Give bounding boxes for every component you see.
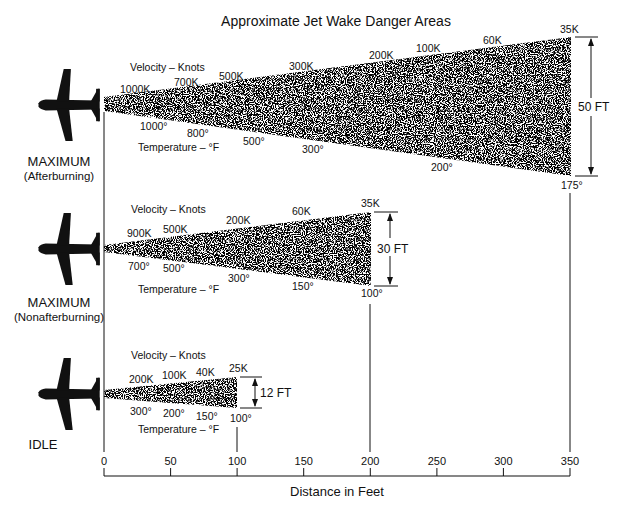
panel-idle: Velocity – Knots 200K 100K 40K 25K 300° …: [29, 349, 292, 452]
velocity-heading: Velocity – Knots: [130, 61, 205, 73]
velocity-label: 700K: [174, 76, 199, 88]
temperature-label: 1000°: [140, 120, 168, 132]
jet-wake-diagram: Approximate Jet Wake Danger Areas Veloci…: [0, 0, 617, 509]
temperature-label: 500°: [243, 135, 265, 147]
temperature-label: 800°: [187, 127, 209, 139]
temperature-label: 300°: [228, 272, 250, 284]
velocity-label: 35K: [361, 197, 380, 209]
temperature-label: 200°: [431, 161, 453, 173]
velocity-heading: Velocity – Knots: [131, 203, 206, 215]
velocity-label: 200K: [129, 373, 154, 385]
velocity-label: 200K: [226, 214, 251, 226]
axis-title: Distance in Feet: [290, 484, 384, 499]
plume-width-label: 50 FT: [578, 100, 610, 114]
axis-tick-label: 350: [561, 455, 579, 467]
temperature-label: 100°: [230, 412, 252, 424]
axis-tick-label: 0: [101, 455, 107, 467]
axis-tick-label: 250: [428, 455, 446, 467]
jet-aircraft-silhouette-icon: [39, 69, 100, 141]
axis-tick-label: 200: [361, 455, 379, 467]
diagram-title: Approximate Jet Wake Danger Areas: [221, 13, 451, 29]
temperature-label: 300°: [130, 405, 152, 417]
axis-tick-label: 150: [295, 455, 313, 467]
temperature-label: 200°: [163, 407, 185, 419]
distance-axis: 0 50 100 150 200 250 300 350 Distance in…: [101, 455, 579, 499]
velocity-label: 500K: [163, 223, 188, 235]
mode-label: IDLE: [29, 437, 58, 452]
axis-tick-label: 300: [494, 455, 512, 467]
plume-width-label: 30 FT: [377, 242, 409, 256]
temperature-label: 300°: [302, 143, 324, 155]
velocity-label: 300K: [289, 60, 314, 72]
velocity-label: 500K: [219, 70, 244, 82]
mode-label: MAXIMUM: [28, 154, 91, 169]
temperature-label: 150°: [196, 410, 218, 422]
axis-tick-label: 50: [164, 455, 176, 467]
velocity-label: 35K: [560, 23, 579, 35]
temperature-label: 175°: [561, 179, 583, 191]
velocity-label: 60K: [483, 34, 502, 46]
exhaust-plume: [104, 37, 571, 176]
velocity-label: 100K: [162, 369, 187, 381]
velocity-label: 25K: [229, 362, 248, 374]
temperature-heading: Temperature – °F: [138, 283, 219, 295]
temperature-label: 500°: [163, 262, 185, 274]
velocity-label: 100K: [416, 42, 441, 54]
velocity-label: 40K: [196, 366, 215, 378]
velocity-heading: Velocity – Knots: [131, 349, 206, 361]
mode-sublabel: (Nonafterburning): [14, 311, 104, 323]
exhaust-plume: [104, 377, 237, 408]
temperature-label: 700°: [128, 260, 150, 272]
mode-sublabel: (Afterburning): [24, 170, 94, 182]
temperature-heading: Temperature – °F: [138, 423, 219, 435]
axis-tick-label: 100: [228, 455, 246, 467]
temperature-label: 100°: [361, 287, 383, 299]
velocity-label: 200K: [369, 49, 394, 61]
plume-width-label: 12 FT: [260, 386, 292, 400]
velocity-label: 60K: [292, 205, 311, 217]
jet-aircraft-silhouette-icon: [39, 358, 100, 430]
mode-label: MAXIMUM: [28, 295, 91, 310]
jet-aircraft-silhouette-icon: [39, 213, 100, 285]
temperature-label: 150°: [292, 280, 314, 292]
double-headed-arrow-icon: [240, 377, 262, 408]
velocity-label: 900K: [127, 227, 152, 239]
temperature-heading: Temperature – °F: [138, 141, 219, 153]
velocity-label: 1000K: [120, 83, 150, 95]
